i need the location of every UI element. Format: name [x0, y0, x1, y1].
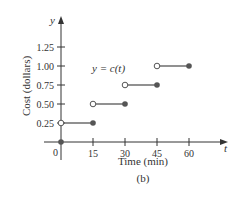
x-axis-symbol: t — [224, 142, 228, 154]
closed-endpoint-icon — [122, 101, 128, 107]
y-tick-label: 0.25 — [37, 118, 55, 129]
figure-caption: (b) — [137, 172, 150, 185]
y-axis-arrow-icon — [58, 16, 64, 24]
y-axis-label: Cost (dollars) — [20, 56, 33, 117]
axes — [44, 16, 228, 160]
y-tick-label: 0.75 — [37, 80, 55, 91]
origin-point-icon — [58, 139, 64, 145]
open-endpoint-icon — [90, 101, 96, 107]
step-segments — [58, 63, 192, 145]
closed-endpoint-icon — [90, 120, 96, 126]
open-endpoint-icon — [122, 82, 128, 88]
closed-endpoint-icon — [154, 82, 160, 88]
function-label: y = c(t) — [91, 62, 125, 75]
y-tick-label: 0.50 — [37, 99, 55, 110]
closed-endpoint-icon — [186, 63, 192, 69]
open-endpoint-icon — [154, 63, 160, 69]
y-tick-label: 1.00 — [37, 61, 55, 72]
y-tick-label: 1.25 — [37, 42, 55, 53]
x-tick-label: 60 — [184, 148, 194, 159]
x-tick-label: 15 — [88, 148, 98, 159]
y-axis-symbol: y — [49, 14, 55, 26]
open-endpoint-icon — [58, 120, 64, 126]
origin-label: 0 — [53, 147, 58, 158]
x-axis-label: Time (min) — [118, 155, 168, 168]
step-function-chart: 153045600.250.500.751.001.25 y = c(t) Ti… — [0, 0, 238, 203]
